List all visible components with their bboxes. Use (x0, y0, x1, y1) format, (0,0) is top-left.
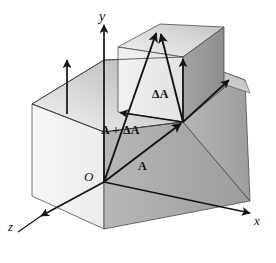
vector-label-A: A (138, 160, 147, 172)
origin-label: O (84, 170, 93, 183)
axis-label-y: y (99, 10, 105, 24)
vector-label-delta-a: ΔA (152, 88, 169, 100)
vector-diagram-figure: y x z O A A + ΔA ΔA (0, 0, 276, 263)
axis-label-x: x (254, 214, 260, 227)
vector-label-a-plus-delta-a: A + ΔA (101, 124, 140, 136)
axis-label-z: z (8, 220, 13, 233)
z-axis-tail (18, 216, 41, 232)
